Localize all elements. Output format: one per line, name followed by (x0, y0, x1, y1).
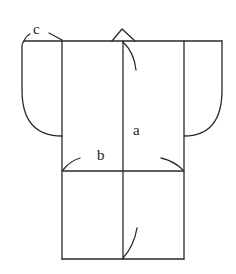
b-arc-left (63, 158, 80, 170)
kimono-diagram: c a b (0, 0, 236, 274)
b-arc-right (161, 158, 183, 170)
right-sleeve-outline (184, 41, 222, 136)
a-arc-top (123, 42, 136, 70)
diagram-canvas: c a b (0, 0, 236, 274)
label-c: c (33, 21, 40, 37)
collar-peak (112, 29, 135, 41)
a-arc-bottom (123, 228, 137, 258)
c-leader-right (49, 33, 62, 40)
left-sleeve-outline (22, 41, 62, 136)
c-leader-left (24, 34, 30, 41)
label-a: a (133, 122, 140, 138)
label-b: b (97, 147, 105, 163)
